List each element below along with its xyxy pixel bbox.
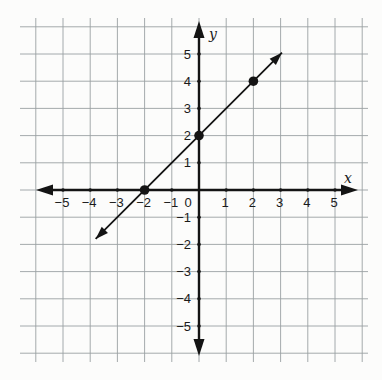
x-tick-dot	[252, 188, 256, 192]
y-tick-dot	[197, 107, 201, 111]
x-tick-label: −1	[163, 195, 178, 210]
y-tick-label: −1	[176, 210, 191, 225]
x-tick-label: −5	[55, 195, 70, 210]
x-tick-label: 1	[222, 195, 229, 210]
x-tick-label: 2	[249, 195, 256, 210]
coordinate-plane-figure: −5−4−3−2−101234554321−1−2−3−4−5xy	[0, 0, 382, 380]
y-tick-label: 1	[184, 155, 191, 170]
x-tick-label: −3	[109, 195, 124, 210]
y-tick-dot	[197, 243, 201, 247]
x-axis-label: x	[344, 170, 352, 186]
x-axis-arrowhead-left	[36, 185, 53, 196]
x-tick-dot	[116, 188, 120, 192]
x-tick-dot	[224, 188, 228, 192]
x-tick-label: −4	[82, 195, 97, 210]
y-tick-label: −3	[176, 264, 191, 279]
y-tick-label: 4	[184, 74, 191, 89]
y-tick-label: −2	[176, 237, 191, 252]
y-tick-dot	[197, 161, 201, 165]
x-tick-dot	[279, 188, 283, 192]
y-tick-dot	[197, 52, 201, 56]
x-tick-dot	[333, 188, 337, 192]
y-tick-dot	[197, 215, 201, 219]
x-axis-arrowhead-right	[341, 185, 358, 196]
x-tick-label: 0	[184, 195, 191, 210]
coordinate-plane-svg: −5−4−3−2−101234554321−1−2−3−4−5xy	[0, 0, 382, 380]
y-tick-label: 5	[184, 47, 191, 62]
x-tick-dot	[306, 188, 310, 192]
y-axis-label: y	[208, 26, 218, 42]
y-tick-label: 3	[184, 101, 191, 116]
x-tick-dot	[88, 188, 92, 192]
x-tick-dot	[61, 188, 65, 192]
y-tick-dot	[197, 297, 201, 301]
y-tick-label: 2	[184, 128, 191, 143]
y-axis-arrowhead-top	[194, 21, 205, 38]
x-tick-label: 3	[276, 195, 283, 210]
x-tick-label: 4	[303, 195, 310, 210]
data-point	[140, 185, 150, 195]
y-tick-dot	[197, 270, 201, 274]
x-tick-label: 5	[330, 195, 337, 210]
y-tick-dot	[197, 324, 201, 328]
data-point	[249, 76, 259, 86]
y-tick-dot	[197, 79, 201, 83]
x-tick-dot	[170, 188, 174, 192]
y-tick-label: −5	[176, 319, 191, 334]
y-tick-label: −4	[176, 291, 191, 306]
data-point	[194, 131, 204, 141]
